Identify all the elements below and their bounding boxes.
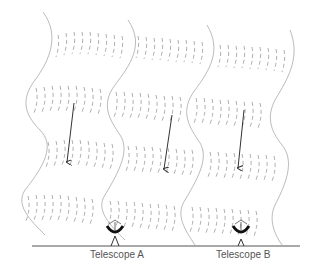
- telescope-a-label: Telescope A: [90, 249, 144, 260]
- drift-arrow-2: [164, 115, 172, 169]
- atmosphere-diagram: [0, 0, 316, 270]
- telescope-a-icon: [107, 220, 123, 246]
- drift-arrow-1: [67, 103, 74, 162]
- drift-arrow-3: [238, 110, 244, 168]
- turbulence-streaks: [26, 32, 285, 236]
- turbulence-cell-boundaries: [22, 12, 294, 245]
- drift-arrows: [67, 103, 244, 169]
- telescope-b-label: Telescope B: [216, 249, 270, 260]
